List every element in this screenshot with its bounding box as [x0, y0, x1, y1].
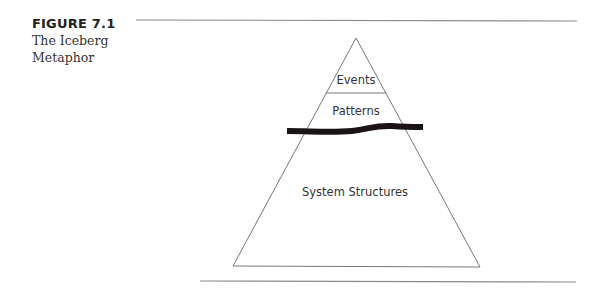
waterline: [287, 126, 423, 132]
level-label-system-structures: System Structures: [302, 185, 408, 199]
iceberg-diagram: Events Patterns System Structures: [0, 0, 600, 289]
top-rule: [136, 20, 577, 21]
level-label-patterns: Patterns: [332, 104, 379, 118]
level-label-events: Events: [337, 73, 376, 87]
bottom-rule: [200, 281, 576, 282]
